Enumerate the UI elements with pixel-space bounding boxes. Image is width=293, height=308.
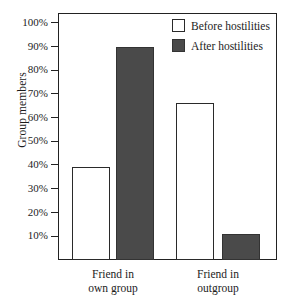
x-axis-label-line1: Friend in xyxy=(197,268,239,280)
bar-1-0 xyxy=(176,103,214,260)
y-tick-mark xyxy=(51,22,59,23)
x-axis-label-line2: own group xyxy=(58,281,168,295)
y-tick-label: 20% xyxy=(2,207,48,218)
white-square-swatch xyxy=(172,19,185,32)
y-tick-label: 100% xyxy=(2,17,48,28)
y-tick-mark xyxy=(51,117,59,118)
y-tick-label: 80% xyxy=(2,64,48,75)
y-tick-mark xyxy=(51,46,59,47)
bar-0-1 xyxy=(116,47,154,260)
y-tick-mark xyxy=(51,188,59,189)
y-tick-mark xyxy=(51,164,59,165)
bar-1-1 xyxy=(222,234,260,260)
legend-label-before: Before hostilities xyxy=(191,20,270,32)
x-axis-label-line1: Friend in xyxy=(92,268,134,280)
y-tick-label: 90% xyxy=(2,41,48,52)
y-tick-label: 40% xyxy=(2,159,48,170)
bar-0-0 xyxy=(72,167,110,260)
x-axis-label-1: Friend inoutgroup xyxy=(163,267,273,295)
bar-chart: Group members 100%90%80%70%60%50%40%30%2… xyxy=(0,0,293,308)
y-tick-mark xyxy=(51,141,59,142)
y-tick-label: 50% xyxy=(2,135,48,146)
x-axis-label-line2: outgroup xyxy=(163,281,273,295)
y-tick-label: 60% xyxy=(2,112,48,123)
y-tick-mark xyxy=(51,93,59,94)
legend-label-after: After hostilities xyxy=(191,40,263,52)
y-tick-label: 30% xyxy=(2,183,48,194)
y-tick-mark xyxy=(51,236,59,237)
dark-square-swatch xyxy=(172,39,185,52)
x-axis-label-0: Friend inown group xyxy=(58,267,168,295)
legend-item-before: Before hostilities xyxy=(172,16,270,35)
legend: Before hostilities After hostilities xyxy=(172,16,270,56)
y-tick-mark xyxy=(51,212,59,213)
y-tick-label: 70% xyxy=(2,88,48,99)
y-tick-mark xyxy=(51,70,59,71)
y-tick-label: 10% xyxy=(2,230,48,241)
legend-item-after: After hostilities xyxy=(172,36,270,55)
